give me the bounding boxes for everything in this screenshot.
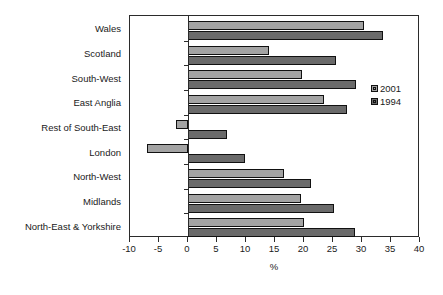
x-axis-tick [158,237,159,242]
x-tick-label: 5 [201,243,231,254]
x-tick-label: 0 [172,243,202,254]
y-axis-labels: WalesScotlandSouth-WestEast AngliaRest o… [0,15,125,237]
chart-legend: 20011994 [371,83,401,109]
bar-1994-north-west [188,179,311,188]
y-tick-label: Scotland [0,49,121,59]
x-tick-label: 20 [288,243,318,254]
y-axis-tick [184,189,188,190]
y-axis-tick [184,41,188,42]
x-tick-label: 30 [346,243,376,254]
x-axis-tick [274,237,275,242]
x-axis-tick [361,237,362,242]
bar-chart: WalesScotlandSouth-WestEast AngliaRest o… [0,0,443,295]
bar-1994-east-anglia [188,105,347,114]
x-axis-tick [390,237,391,242]
dark-gray-swatch [371,98,378,105]
x-axis-tick [129,237,130,242]
x-axis-tick [216,237,217,242]
y-axis-tick [184,115,188,116]
y-tick-label: North-West [0,172,121,182]
bar-1994-south-west [188,80,356,89]
x-axis-tick [303,237,304,242]
bar-1994-wales [188,31,383,40]
x-tick-label: 10 [230,243,260,254]
zero-axis-line [188,16,189,236]
y-axis-tick [184,139,188,140]
y-tick-label: North-East & Yorkshire [0,222,121,232]
legend-label: 2001 [380,83,401,94]
x-tick-label: 15 [259,243,289,254]
bar-2001-midlands [188,194,301,203]
y-tick-label: East Anglia [0,98,121,108]
x-axis-tick [187,237,188,242]
y-tick-label: Midlands [0,197,121,207]
y-tick-label: London [0,148,121,158]
x-tick-label: -10 [114,243,144,254]
y-tick-label: South-West [0,74,121,84]
x-axis-tick [245,237,246,242]
bar-1994-midlands [188,204,334,213]
legend-label: 1994 [380,96,401,107]
bar-1994-scotland [188,56,336,65]
x-tick-label: 25 [317,243,347,254]
y-tick-label: Wales [0,24,121,34]
x-axis: -10-50510152025303540 [129,237,419,261]
y-tick-label: Rest of South-East [0,123,121,133]
bar-1994-rest-of-south-east [188,130,227,139]
x-axis-tick [332,237,333,242]
light-gray-swatch [371,85,378,92]
x-axis-title: % [129,261,419,272]
legend-entry-2001: 2001 [371,83,401,94]
y-axis-tick [184,90,188,91]
bar-2001-rest-of-south-east [176,120,188,129]
bar-2001-east-anglia [188,95,324,104]
y-axis-tick [184,164,188,165]
legend-entry-1994: 1994 [371,96,401,107]
plot-area [129,15,419,237]
bar-2001-london [147,144,188,153]
x-tick-label: -5 [143,243,173,254]
bar-1994-north-east-yorkshire [188,228,355,237]
bar-2001-south-west [188,70,302,79]
x-tick-label: 35 [375,243,405,254]
bar-2001-scotland [188,46,269,55]
y-axis-tick [184,65,188,66]
bar-2001-north-east-yorkshire [188,218,304,227]
bar-2001-wales [188,21,364,30]
y-axis-tick [184,213,188,214]
x-tick-label: 40 [404,243,434,254]
bar-1994-london [188,154,245,163]
bar-2001-north-west [188,169,284,178]
x-axis-tick [419,237,420,242]
